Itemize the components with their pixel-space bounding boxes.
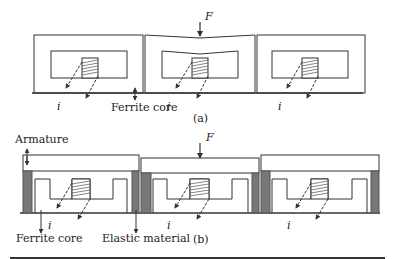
current-label-b-1: i	[48, 219, 52, 232]
ferrite-core-label-a: Ferrite core	[111, 101, 178, 114]
current-label-b-3: i	[287, 219, 291, 232]
ferrite-core-label-b: Ferrite core	[16, 232, 83, 245]
diagram-canvas: F i i i Ferrite core (a)	[0, 0, 393, 259]
force-label-a: F	[204, 10, 213, 23]
current-label-a-1: i	[57, 100, 61, 113]
elastic-material-label: Elastic material	[102, 232, 191, 245]
armature-label: Armature	[14, 133, 68, 146]
panel-a	[32, 22, 365, 100]
caption-b: (b)	[193, 233, 209, 246]
current-label-a-3: i	[278, 100, 282, 113]
current-label-b-2: i	[167, 219, 171, 232]
panel-b	[20, 143, 380, 233]
caption-a: (a)	[193, 112, 208, 125]
force-label-b: F	[205, 131, 214, 144]
